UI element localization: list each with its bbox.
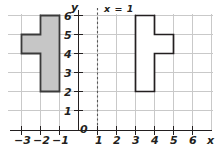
y-tick-label-6: 6 [64,11,72,22]
y-axis-label: y [71,2,78,13]
image-polygon [136,16,174,92]
preimage-polygon [22,16,60,92]
coordinate-plane [0,0,218,152]
x-tick-label-1: 1 [95,135,103,146]
x-tick-label-4: 4 [151,135,159,146]
mirror-line-equation-label: x = 1 [104,4,134,14]
y-tick-label-2: 2 [64,87,72,98]
x-tick-label-3: 3 [132,135,140,146]
x-tick-label-neg1: −1 [52,135,69,146]
x-tick-label-5: 5 [170,135,178,146]
y-tick-label-3: 3 [64,68,72,79]
x-tick-label-neg3: −3 [14,135,31,146]
x-tick-label-2: 2 [113,135,121,146]
origin-label: 0 [80,124,88,135]
figure-canvas: y x 0 1 2 3 4 5 6 −3 −2 −1 1 2 3 4 5 6 x… [0,0,218,152]
grid-horizontal-lines [8,16,213,111]
y-tick-label-1: 1 [64,106,72,117]
x-tick-label-6: 6 [189,135,197,146]
y-tick-label-5: 5 [64,30,72,41]
x-axis-label: x [207,135,214,146]
x-tick-label-neg2: −2 [33,135,50,146]
y-tick-label-4: 4 [64,49,72,60]
